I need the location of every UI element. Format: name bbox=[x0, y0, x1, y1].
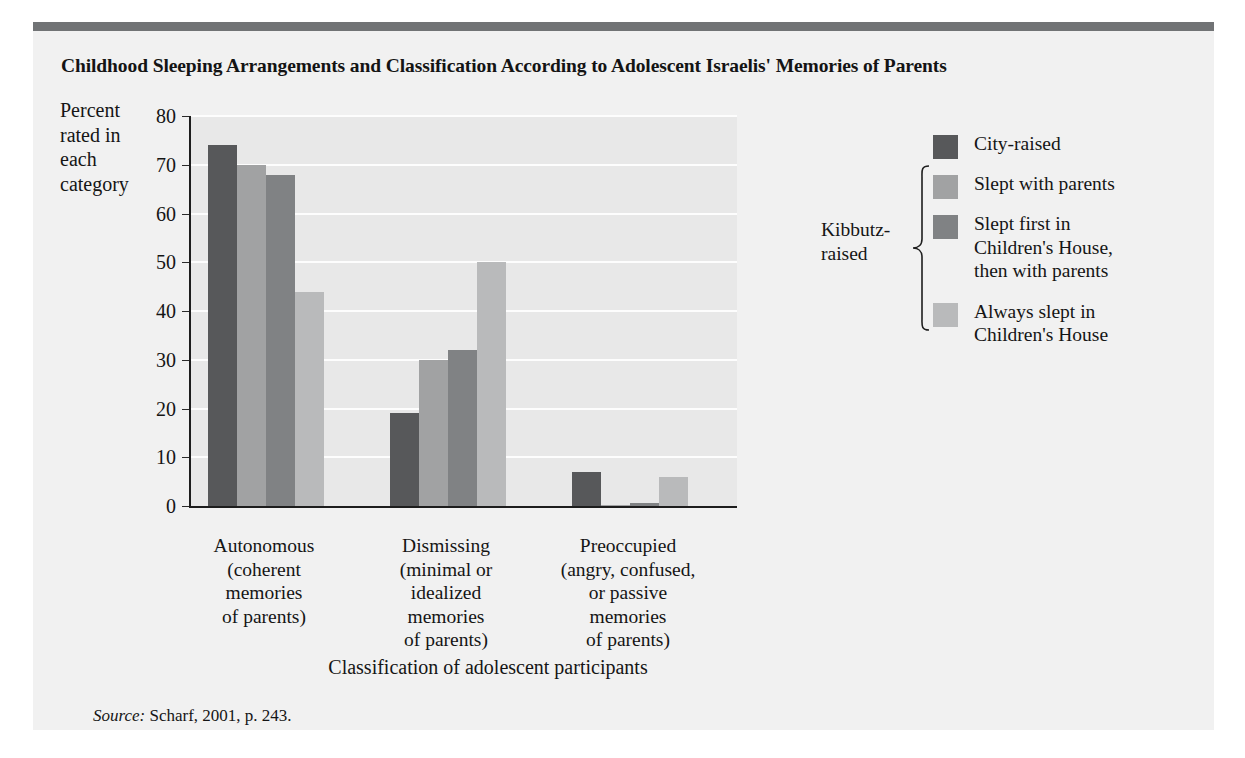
y-axis-tick-mark bbox=[182, 214, 189, 215]
y-axis-tick-label: 30 bbox=[156, 348, 176, 371]
bar-slot bbox=[659, 116, 688, 506]
x-axis-category-label-line: Preoccupied bbox=[518, 534, 738, 558]
top-rule-divider bbox=[33, 22, 1214, 31]
legend-item[interactable]: Slept with parents bbox=[933, 172, 1203, 199]
figure-panel: Childhood Sleeping Arrangements and Clas… bbox=[33, 22, 1214, 730]
y-axis-tick-mark bbox=[182, 165, 189, 166]
bar[interactable] bbox=[208, 145, 237, 506]
bar[interactable] bbox=[237, 165, 266, 506]
curly-brace-icon bbox=[911, 165, 931, 331]
bar[interactable] bbox=[390, 413, 419, 506]
plot-area bbox=[189, 116, 737, 508]
bar-slot bbox=[477, 116, 506, 506]
bar[interactable] bbox=[477, 262, 506, 506]
legend-item-label-line: City-raised bbox=[974, 132, 1061, 156]
y-axis-tick-mark bbox=[182, 506, 189, 507]
y-axis-tick-label: 60 bbox=[156, 202, 176, 225]
bar-slot bbox=[208, 116, 237, 506]
legend-swatch bbox=[933, 303, 958, 327]
y-axis-tick-label: 20 bbox=[156, 397, 176, 420]
chart-title: Childhood Sleeping Arrangements and Clas… bbox=[61, 55, 1191, 77]
bar[interactable] bbox=[659, 477, 688, 506]
legend-item-label: City-raised bbox=[974, 132, 1061, 156]
bracket-label-line-2: raised bbox=[821, 242, 906, 266]
y-axis-tick-label: 0 bbox=[166, 495, 176, 518]
source-note-keyword: Source: bbox=[93, 706, 145, 725]
legend-item-label: Slept with parents bbox=[974, 172, 1115, 196]
bracket-label-line-1: Kibbutz- bbox=[821, 218, 906, 242]
bar[interactable] bbox=[630, 503, 659, 506]
bar-slot bbox=[390, 116, 419, 506]
legend-swatch bbox=[933, 175, 958, 199]
bar-slot bbox=[266, 116, 295, 506]
bar[interactable] bbox=[266, 175, 295, 507]
y-axis-tick-mark bbox=[182, 409, 189, 410]
legend-item[interactable]: Always slept inChildren's House bbox=[933, 300, 1203, 347]
legend-item[interactable]: Slept first inChildren's House,then with… bbox=[933, 212, 1203, 283]
legend: City-raisedSlept with parentsSlept first… bbox=[933, 132, 1203, 347]
y-axis-tick-mark bbox=[182, 360, 189, 361]
bar[interactable] bbox=[448, 350, 477, 506]
bar[interactable] bbox=[572, 472, 601, 506]
x-axis-category-label-line: memories bbox=[518, 605, 738, 629]
legend-swatch bbox=[933, 135, 958, 159]
bar-group bbox=[208, 116, 324, 506]
y-axis-tick-label: 80 bbox=[156, 105, 176, 128]
bar-slot bbox=[295, 116, 324, 506]
x-axis-category-label-line: or passive bbox=[518, 581, 738, 605]
x-axis-category-label: Preoccupied(angry, confused,or passiveme… bbox=[518, 534, 738, 652]
y-axis-tick-label: 50 bbox=[156, 251, 176, 274]
y-axis-tick-label: 70 bbox=[156, 153, 176, 176]
legend-item-label: Slept first inChildren's House,then with… bbox=[974, 212, 1113, 283]
bar[interactable] bbox=[295, 292, 324, 507]
bar-slot bbox=[448, 116, 477, 506]
y-axis-ticks: 80706050403020100 bbox=[138, 116, 182, 527]
bar-group bbox=[572, 116, 688, 506]
y-axis-tick-mark bbox=[182, 262, 189, 263]
y-axis-tick-mark bbox=[182, 457, 189, 458]
y-axis-tick-mark bbox=[182, 116, 189, 117]
x-axis-category-label-line: (angry, confused, bbox=[518, 558, 738, 582]
bar-slot bbox=[601, 116, 630, 506]
bar-slot bbox=[419, 116, 448, 506]
legend-item[interactable]: City-raised bbox=[933, 132, 1203, 159]
kibbutz-raised-bracket-label: Kibbutz- raised bbox=[821, 218, 906, 265]
legend-item-label-line: Slept with parents bbox=[974, 172, 1115, 196]
y-axis-tick-label: 40 bbox=[156, 300, 176, 323]
legend-swatch bbox=[933, 215, 958, 239]
bar[interactable] bbox=[419, 360, 448, 506]
bar-slot bbox=[630, 116, 659, 506]
x-axis-title: Classification of adolescent participant… bbox=[138, 656, 838, 679]
bar-group bbox=[390, 116, 506, 506]
source-note: Source: Scharf, 2001, p. 243. bbox=[93, 706, 292, 726]
x-axis-category-label-line: of parents) bbox=[518, 628, 738, 652]
bar[interactable] bbox=[601, 505, 630, 506]
legend-item-label-line: Children's House bbox=[974, 323, 1108, 347]
bar-slot bbox=[237, 116, 266, 506]
legend-item-label-line: Always slept in bbox=[974, 300, 1108, 324]
y-axis-tick-mark bbox=[182, 311, 189, 312]
legend-item-label-line: Children's House, bbox=[974, 236, 1113, 260]
source-note-text: Scharf, 2001, p. 243. bbox=[145, 706, 291, 725]
bar-slot bbox=[572, 116, 601, 506]
legend-item-label: Always slept inChildren's House bbox=[974, 300, 1108, 347]
y-axis-tick-label: 10 bbox=[156, 446, 176, 469]
legend-item-label-line: Slept first in bbox=[974, 212, 1113, 236]
legend-item-label-line: then with parents bbox=[974, 259, 1113, 283]
